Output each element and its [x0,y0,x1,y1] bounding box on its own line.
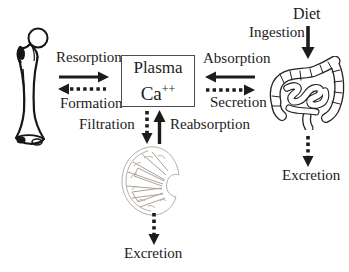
filtration-arrow [141,111,153,144]
ingestion-arrow [301,26,315,59]
resorption-arrow [59,71,109,83]
calcium-symbol: Ca [141,83,162,104]
formation-arrow [58,83,106,95]
kidney-icon [118,144,186,218]
plasma-ca-box: Plasma Ca++ [121,55,195,107]
bone-icon [8,24,54,148]
resorption-label: Resorption [56,49,122,66]
formation-label: Formation [60,95,123,112]
calcium-homeostasis-diagram: Resorption Formation Plasma Ca++ Absorpt… [0,0,349,272]
absorption-arrow [205,71,255,83]
reabsorption-label: Reabsorption [170,116,250,133]
calcium-label: Ca++ [122,78,194,105]
kidney-excretion-label: Excretion [124,245,182,262]
diet-label: Diet [293,5,321,22]
secretion-label: Secretion [210,94,267,111]
gut-excretion-arrow [302,136,314,167]
gut-excretion-label: Excretion [282,167,340,184]
reabsorption-arrow [153,110,166,144]
filtration-label: Filtration [79,116,135,133]
absorption-label: Absorption [203,50,271,67]
intestine-icon [266,56,347,130]
kidney-excretion-arrow [148,213,160,245]
plasma-label: Plasma [122,57,194,78]
calcium-charge: ++ [162,82,176,96]
ingestion-label: Ingestion [249,24,305,41]
